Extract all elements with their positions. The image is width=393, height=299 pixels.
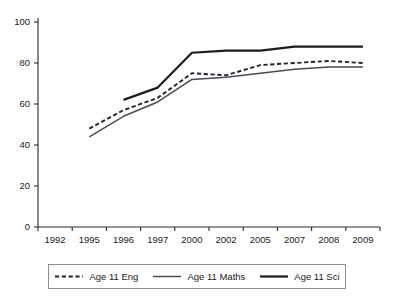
x-tick-label: 2007 xyxy=(284,234,305,245)
y-tick-label: 60 xyxy=(19,98,30,109)
legend-swatch-dashed xyxy=(54,272,84,281)
chart-plot-area: 020406080100 199219951996199720002002200… xyxy=(0,0,393,252)
y-tick-label: 100 xyxy=(14,16,30,27)
line-chart: 020406080100 199219951996199720002002200… xyxy=(0,0,393,299)
x-tick-label: 2005 xyxy=(250,234,271,245)
x-tick-label: 1996 xyxy=(113,234,134,245)
legend-item: Age 11 Sci xyxy=(252,272,346,282)
x-tick-label: 2008 xyxy=(318,234,339,245)
legend-item: Age 11 Maths xyxy=(145,272,252,282)
y-tick-label: 80 xyxy=(19,57,30,68)
y-tick-label: 20 xyxy=(19,180,30,191)
x-tick-label: 1992 xyxy=(45,234,66,245)
x-tick-label: 2002 xyxy=(216,234,237,245)
chart-legend: Age 11 EngAge 11 MathsAge 11 Sci xyxy=(48,264,346,289)
legend-swatch-solid-thin xyxy=(152,272,182,281)
x-tick-label: 1997 xyxy=(147,234,168,245)
x-tick-label: 1995 xyxy=(79,234,100,245)
series-line-age-11-eng xyxy=(89,61,363,129)
y-tick-label: 40 xyxy=(19,139,30,150)
legend-label: Age 11 Sci xyxy=(294,272,339,282)
legend-item: Age 11 Eng xyxy=(47,272,145,282)
y-axis-ticks: 020406080100 xyxy=(14,16,38,232)
series-line-age-11-sci xyxy=(124,47,363,100)
legend-swatch-solid-thick xyxy=(259,272,289,281)
x-tick-label: 2000 xyxy=(181,234,202,245)
x-tick-label: 2009 xyxy=(352,234,373,245)
legend-label: Age 11 Eng xyxy=(89,272,138,282)
y-tick-label: 0 xyxy=(25,221,30,232)
x-axis-ticks: 1992199519961997200020022005200720082009 xyxy=(38,227,380,245)
axis-lines xyxy=(38,18,380,227)
series-line-age-11-maths xyxy=(89,67,363,137)
legend-label: Age 11 Maths xyxy=(187,272,245,282)
